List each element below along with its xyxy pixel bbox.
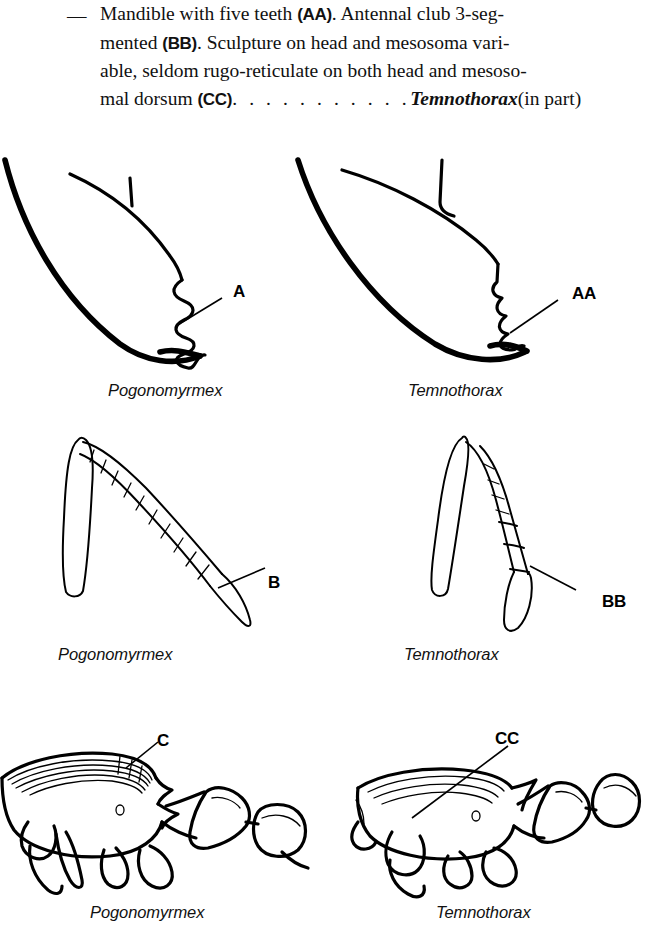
mandible-pogonomyrmex-drawing bbox=[0, 148, 300, 378]
figure-mandible-temnothorax bbox=[290, 148, 600, 378]
mandible-basal-tick bbox=[130, 178, 132, 206]
couplet-text: Mandible with five teeth (AA). Antennal … bbox=[100, 0, 628, 113]
callout-label-aa: AA bbox=[572, 284, 596, 304]
key-couplet-block: — Mandible with five teeth (AA). Antenna… bbox=[0, 0, 646, 122]
callout-leader-cc bbox=[412, 746, 508, 818]
antenna-pogonomyrmex-drawing bbox=[50, 428, 310, 648]
propodeal-spine-upper bbox=[156, 778, 172, 804]
label-cc-inline: (CC) bbox=[198, 90, 233, 109]
postpetiole bbox=[254, 805, 306, 857]
key-page: — Mandible with five teeth (AA). Antenna… bbox=[0, 0, 646, 946]
eye bbox=[472, 811, 480, 821]
couplet-line-4: mal dorsum (CC). . . . . . . . . . .Temn… bbox=[100, 85, 628, 114]
label-aa-inline: (AA) bbox=[297, 5, 332, 24]
antenna-scape bbox=[431, 437, 468, 596]
petiole-detail bbox=[556, 791, 582, 802]
taxon-name: Temnothorax bbox=[410, 88, 518, 109]
mesosoma-petiole-link bbox=[514, 826, 544, 838]
petiole-detail bbox=[212, 797, 240, 808]
mandible-temnothorax-drawing bbox=[290, 148, 600, 378]
club-apical-segment bbox=[504, 572, 532, 631]
caption-antenna-temnothorax: Temnothorax bbox=[404, 645, 499, 664]
mesosoma-dorsum bbox=[358, 769, 512, 788]
callout-leader-bb bbox=[530, 566, 576, 590]
postpetiole-detail bbox=[604, 785, 636, 796]
callout-leader-aa bbox=[510, 300, 558, 333]
couplet-line-1: Mandible with five teeth (AA). Antennal … bbox=[100, 0, 628, 29]
callout-label-c: C bbox=[157, 731, 169, 751]
funiculus-lower-edge bbox=[80, 454, 210, 586]
callout-label-bb: BB bbox=[602, 592, 626, 612]
antenna-temnothorax-drawing bbox=[400, 428, 630, 648]
leg-middle bbox=[56, 832, 82, 888]
label-bb-inline: (BB) bbox=[162, 34, 197, 53]
mandible-basal-tick bbox=[440, 160, 454, 216]
gaster-stub bbox=[282, 852, 308, 868]
mesosoma-body-outline bbox=[358, 788, 515, 859]
mesosoma-temnothorax-drawing bbox=[336, 726, 646, 906]
mandible-basal-margin bbox=[70, 174, 182, 280]
caption-mesosoma-temnothorax: Temnothorax bbox=[436, 903, 531, 922]
caption-mandible-pogonomyrmex: Pogonomyrmex bbox=[108, 381, 222, 400]
dorsum-sparse-sculpture bbox=[356, 776, 504, 824]
couplet-line-1-text: Mandible with five teeth (AA). Antennal … bbox=[100, 0, 504, 29]
eye bbox=[116, 805, 124, 815]
callout-label-a: A bbox=[233, 282, 245, 302]
antenna-apical-segment bbox=[210, 574, 251, 626]
petiole-postpetiole-link bbox=[246, 822, 258, 824]
callout-label-b: B bbox=[268, 573, 280, 593]
couplet-line-2: mented (BB). Sculpture on head and mesos… bbox=[100, 29, 628, 58]
couplet-line-3: able, seldom rugo-reticulate on both hea… bbox=[100, 57, 628, 85]
petiole bbox=[190, 788, 250, 849]
postpetiole-detail bbox=[262, 815, 300, 826]
mandible-teeth bbox=[493, 264, 524, 350]
figure-mesosoma-temnothorax bbox=[336, 726, 646, 906]
mandible-basal-margin bbox=[342, 170, 498, 264]
caption-mesosoma-pogonomyrmex: Pogonomyrmex bbox=[90, 903, 204, 922]
petiole-postpetiole-link bbox=[586, 808, 596, 810]
mandible-outer-edge bbox=[298, 160, 525, 360]
dot-leader: . . . . . . . . . . . bbox=[232, 88, 410, 109]
callout-leader-c bbox=[126, 742, 158, 768]
caption-antenna-pogonomyrmex: Pogonomyrmex bbox=[58, 645, 172, 664]
callout-label-cc: CC bbox=[495, 729, 519, 749]
figure-antenna-temnothorax bbox=[400, 428, 630, 648]
leg-front-femur bbox=[390, 860, 425, 897]
funiculus-upper-edge bbox=[83, 442, 222, 574]
couplet-dash: — bbox=[67, 2, 87, 30]
funiculus-upper-edge bbox=[466, 442, 514, 572]
caption-mandible-temnothorax: Temnothorax bbox=[408, 381, 503, 400]
antenna-scape bbox=[63, 438, 93, 597]
figure-antenna-pogonomyrmex bbox=[50, 428, 310, 648]
mesosoma-pogonomyrmex-drawing bbox=[0, 726, 330, 906]
figure-mesosoma-pogonomyrmex bbox=[0, 726, 330, 906]
taxon-qualifier: (in part) bbox=[518, 88, 581, 109]
figure-mandible-pogonomyrmex bbox=[0, 148, 300, 378]
leg-hind-2 bbox=[139, 846, 173, 888]
postpetiole bbox=[593, 775, 640, 827]
